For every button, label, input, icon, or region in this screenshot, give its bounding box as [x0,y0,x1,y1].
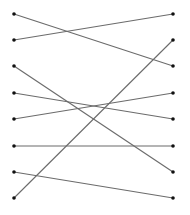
right-node-dot [171,64,175,68]
left-node-dot [12,170,16,174]
matching-diagram [0,0,190,215]
right-node-dot [171,12,175,16]
edge-line [14,40,173,198]
left-nodes-group [12,12,16,200]
right-node-dot [171,91,175,95]
right-node-dot [171,117,175,121]
edge-line [14,14,173,66]
edges-group [14,14,173,198]
edge-line [14,172,173,198]
right-nodes-group [171,12,175,200]
right-node-dot [171,144,175,148]
edge-line [14,14,173,40]
right-node-dot [171,196,175,200]
left-node-dot [12,64,16,68]
right-node-dot [171,38,175,42]
left-node-dot [12,91,16,95]
left-node-dot [12,196,16,200]
left-node-dot [12,117,16,121]
left-node-dot [12,144,16,148]
left-node-dot [12,38,16,42]
right-node-dot [171,170,175,174]
left-node-dot [12,12,16,16]
